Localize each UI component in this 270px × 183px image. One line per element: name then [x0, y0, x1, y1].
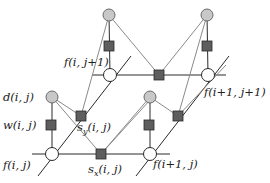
data-node-d-i1j1	[201, 9, 213, 21]
factor-w-i1j1	[202, 41, 212, 51]
label-f-ij: f(i, j)	[2, 158, 31, 172]
factor-sy-i1j	[173, 111, 183, 121]
factor-sx-ij	[96, 149, 106, 159]
label-sx-ij: sx(i, j)	[88, 162, 122, 178]
data-node-d-ij1	[103, 9, 115, 21]
data-node-d-i1j	[144, 91, 156, 103]
factor-w-ij1	[104, 41, 114, 51]
factor-graph-diagram: d(i, j) w(i, j) f(i, j) sy(i, j) sx(i, j…	[0, 0, 270, 183]
label-f-ij1: f(i, j+1)	[63, 55, 109, 69]
label-f-i1j: f(i+1, j)	[152, 157, 198, 171]
data-node-d-ij	[46, 91, 58, 103]
factor-sx-ij1	[154, 70, 164, 80]
label-d-ij: d(i, j)	[3, 90, 34, 104]
label-f-i1j1: f(i+1, j+1)	[203, 85, 266, 99]
variable-node-f-i1j1	[202, 69, 215, 82]
factor-w-ij	[46, 120, 56, 130]
variable-node-f-ij	[46, 148, 59, 161]
variable-node-f-ij1	[104, 69, 117, 82]
edge-d1-sx-ij1	[159, 15, 207, 75]
factor-w-i1j	[144, 120, 154, 130]
edge-d-sx-ij1	[109, 15, 159, 75]
label-sy-ij: sy(i, j)	[77, 120, 111, 136]
label-w-ij: w(i, j)	[3, 118, 36, 132]
